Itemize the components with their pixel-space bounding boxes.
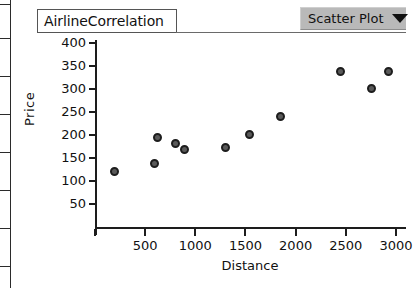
data-point[interactable] [180, 145, 189, 154]
y-axis-tick [89, 42, 95, 44]
x-axis-tick [345, 229, 347, 236]
y-axis-tick-label: 400 [40, 36, 86, 49]
dataset-title-text: AirlineCorrelation [44, 13, 164, 29]
y-axis-tick [89, 88, 95, 90]
y-axis-tick [89, 134, 95, 136]
y-axis-tick [89, 180, 95, 182]
y-axis-tick [89, 65, 95, 67]
dataset-title-field[interactable]: AirlineCorrelation [37, 9, 177, 33]
x-axis-tick-label: 500 [120, 239, 170, 253]
scatter-plot: 50100150200250300350400 5001000150020002… [0, 34, 406, 288]
y-axis-tick [89, 111, 95, 113]
y-axis-tick-label: 150 [40, 151, 86, 164]
x-axis-tick-label: 1500 [220, 239, 270, 253]
data-point[interactable] [336, 67, 345, 76]
x-axis-tick-label: 3000 [371, 239, 417, 253]
x-axis-line [95, 227, 406, 229]
data-point[interactable] [384, 67, 393, 76]
y-axis-tick-label: 350 [40, 59, 86, 72]
x-axis-tick-label: 1000 [170, 239, 220, 253]
data-point[interactable] [150, 159, 159, 168]
x-axis-tick [244, 229, 246, 236]
x-axis-tick [295, 229, 297, 236]
y-axis-tick-label: 250 [40, 105, 86, 118]
y-axis-title: Price [22, 92, 37, 126]
data-point[interactable] [245, 130, 254, 139]
y-axis-tick [89, 157, 95, 159]
data-point[interactable] [221, 143, 230, 152]
data-point[interactable] [367, 84, 376, 93]
x-axis-tick-label: 2000 [271, 239, 321, 253]
x-axis-tick [144, 229, 146, 236]
x-axis-tick [395, 229, 397, 236]
y-axis-tick-label: 100 [40, 174, 86, 187]
data-point[interactable] [153, 133, 162, 142]
chevron-down-icon [392, 14, 408, 23]
y-axis-tick-label: 200 [40, 128, 86, 141]
left-scale-tick [0, 4, 10, 5]
x-axis-tick-label: 2500 [321, 239, 371, 253]
header-divider [176, 32, 406, 33]
y-axis-tick [89, 203, 95, 205]
plot-type-dropdown[interactable]: Scatter Plot [300, 7, 406, 30]
plot-type-dropdown-label: Scatter Plot [308, 11, 384, 26]
y-axis-tick-label: 50 [40, 197, 86, 210]
data-point[interactable] [171, 139, 180, 148]
data-point[interactable] [110, 167, 119, 176]
x-axis-tick [194, 229, 196, 236]
y-axis-line [95, 40, 97, 235]
x-axis-origin-tick [94, 229, 96, 236]
x-axis-title: Distance [150, 258, 350, 273]
y-axis-tick-label: 300 [40, 82, 86, 95]
data-point[interactable] [276, 112, 285, 121]
